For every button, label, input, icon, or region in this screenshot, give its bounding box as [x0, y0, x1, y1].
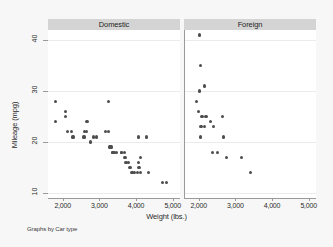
data-point	[198, 89, 201, 92]
x-axis-line	[184, 198, 316, 199]
data-point	[225, 156, 228, 159]
data-point	[137, 161, 140, 164]
data-point	[240, 156, 243, 159]
x-tick-label: 3,000	[84, 202, 114, 209]
data-point	[64, 110, 67, 113]
data-point	[54, 120, 57, 123]
panel-header-foreign: Foreign	[184, 19, 316, 30]
x-tick-label: 4,000	[257, 202, 287, 209]
data-point	[85, 130, 88, 133]
y-tick-mark	[43, 142, 48, 143]
x-axis-line	[48, 198, 180, 199]
x-tick-mark	[173, 198, 174, 201]
data-point	[123, 151, 126, 154]
data-point	[145, 135, 148, 138]
x-tick-mark	[309, 198, 310, 201]
y-tick-label: 20	[31, 133, 38, 149]
gridline-y-20	[184, 142, 316, 143]
data-point	[115, 151, 118, 154]
data-point	[203, 125, 206, 128]
y-tick-mark	[43, 91, 48, 92]
panel-plot-foreign	[184, 30, 316, 198]
x-tick-mark	[63, 198, 64, 201]
data-point	[147, 171, 150, 174]
x-axis-title: Weight (lbs.)	[0, 212, 333, 221]
gridline-y-10	[184, 193, 316, 194]
y-axis-title: Mileage (mpg)	[10, 70, 19, 180]
data-point	[211, 151, 214, 154]
y-tick-label: 10	[31, 183, 38, 199]
x-tick-mark	[272, 198, 273, 201]
data-point	[221, 115, 224, 118]
panel-divider-line	[184, 30, 185, 199]
panel-plot-domestic	[48, 30, 180, 198]
data-point	[107, 100, 110, 103]
data-point	[139, 156, 142, 159]
x-tick-mark	[199, 198, 200, 201]
data-point	[197, 110, 200, 113]
data-point	[129, 166, 132, 169]
data-point	[86, 120, 89, 123]
x-tick-label: 2,000	[184, 202, 214, 209]
data-point	[66, 130, 69, 133]
data-point	[95, 135, 98, 138]
data-point	[198, 33, 201, 36]
data-point	[203, 84, 206, 87]
data-point	[212, 125, 215, 128]
x-tick-label: 3,000	[220, 202, 250, 209]
data-point	[199, 64, 202, 67]
data-point	[70, 130, 73, 133]
data-point	[249, 171, 252, 174]
y-tick-mark	[43, 40, 48, 41]
gridline-y-20	[48, 142, 180, 143]
y-tick-label: 30	[31, 82, 38, 98]
data-point	[139, 171, 142, 174]
y-tick-mark	[43, 193, 48, 194]
data-point	[54, 100, 57, 103]
data-point	[204, 115, 207, 118]
data-point	[165, 181, 168, 184]
chart-footnote: Graphs by Car type	[27, 226, 77, 232]
x-tick-mark	[99, 198, 100, 201]
data-point	[195, 100, 198, 103]
data-point	[89, 140, 92, 143]
data-point	[222, 135, 225, 138]
gridline-y-40	[48, 40, 180, 41]
x-tick-mark	[136, 198, 137, 201]
gridline-y-30	[184, 91, 316, 92]
data-point	[64, 115, 67, 118]
gridline-y-10	[48, 193, 180, 194]
data-point	[161, 181, 164, 184]
gridline-y-40	[184, 40, 316, 41]
gridline-y-30	[48, 91, 180, 92]
x-tick-label: 2,000	[48, 202, 78, 209]
data-point	[137, 135, 140, 138]
x-tick-label: 5,000	[294, 202, 324, 209]
data-point	[82, 135, 85, 138]
x-tick-mark	[235, 198, 236, 201]
data-point	[127, 161, 130, 164]
data-point	[137, 166, 140, 169]
data-point	[123, 156, 126, 159]
y-tick-label: 40	[31, 31, 38, 47]
x-tick-label: 4,000	[121, 202, 151, 209]
data-point	[199, 135, 202, 138]
data-point	[71, 135, 74, 138]
data-point	[209, 120, 212, 123]
panel-header-label: Foreign	[238, 20, 263, 29]
panel-header-label: Domestic	[99, 20, 129, 29]
data-point	[107, 130, 110, 133]
chart-canvas: Mileage (mpg) DomesticForeign 10203040 2…	[0, 0, 333, 247]
data-point	[110, 145, 113, 148]
panel-header-domestic: Domestic	[48, 19, 180, 30]
data-point	[216, 151, 219, 154]
